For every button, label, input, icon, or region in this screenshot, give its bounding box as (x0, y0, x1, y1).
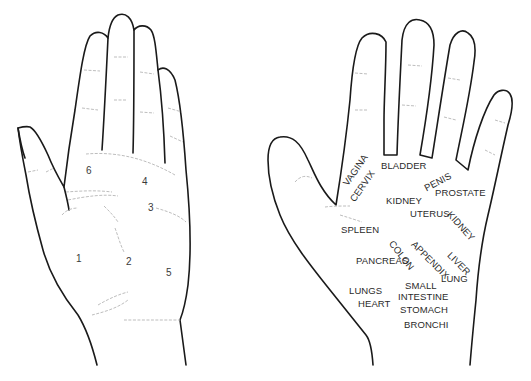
label-heart: HEART (358, 299, 391, 309)
label-intestine: INTESTINE (398, 292, 449, 302)
label-bladder: BLADDER (381, 161, 427, 171)
label-pancreas: PANCREAS (356, 256, 408, 266)
zone-1: 1 (76, 254, 82, 264)
zone-6: 6 (86, 166, 92, 176)
label-small: SMALL (405, 281, 437, 291)
label-kidney-center: KIDNEY (386, 196, 422, 206)
label-lung: LUNG (441, 274, 468, 284)
zone-2: 2 (126, 257, 132, 267)
label-spleen: SPLEEN (341, 225, 379, 235)
label-uterus: UTERUS (410, 209, 450, 219)
label-stomach: STOMACH (400, 305, 448, 315)
zone-3: 3 (148, 203, 154, 213)
label-lungs: LUNGS (349, 286, 382, 296)
label-bronchi: BRONCHI (404, 320, 449, 330)
label-prostate: PROSTATE (435, 188, 486, 198)
left-hand-outline (18, 14, 190, 365)
left-hand-creases (28, 57, 186, 320)
zone-5: 5 (166, 268, 172, 278)
zone-4: 4 (142, 177, 148, 187)
